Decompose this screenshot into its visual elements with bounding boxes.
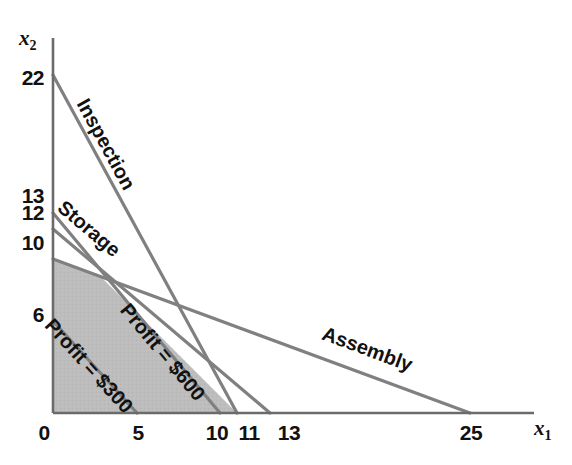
x-tick-13: 13 xyxy=(275,421,303,445)
y-tick-6: 6 xyxy=(6,303,44,327)
y-axis-label-sub: 2 xyxy=(30,38,37,53)
x-axis-label: x1 xyxy=(534,416,552,444)
x-tick-10: 10 xyxy=(203,421,231,445)
y-axis-label: x2 xyxy=(19,26,37,54)
y-axis-label-main: x xyxy=(19,26,30,50)
x-tick-25: 25 xyxy=(457,421,485,445)
y-tick-22: 22 xyxy=(6,66,44,90)
figure-container: x2 x1 22 13 12 10 6 0 5 10 11 13 25 Insp… xyxy=(0,0,572,465)
x-tick-0: 0 xyxy=(32,421,56,445)
x-tick-11: 11 xyxy=(235,421,263,445)
x-tick-5: 5 xyxy=(126,421,150,445)
x-axis-label-sub: 1 xyxy=(545,428,552,443)
y-tick-12: 12 xyxy=(6,201,44,225)
y-tick-10: 10 xyxy=(6,231,44,255)
x-axis-label-main: x xyxy=(534,416,545,440)
